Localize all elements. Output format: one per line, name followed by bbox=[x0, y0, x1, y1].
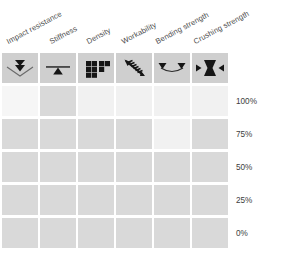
bending-strength-icon bbox=[154, 53, 190, 83]
matrix-cell-crushing-strength-25[interactable] bbox=[192, 185, 228, 215]
matrix-cell-bending-strength-75[interactable] bbox=[154, 119, 190, 149]
matrix-cell-workability-50[interactable] bbox=[116, 152, 152, 182]
matrix-cell-workability-100[interactable] bbox=[116, 86, 152, 116]
matrix-row-25 bbox=[2, 185, 229, 215]
matrix-cell-density-50[interactable] bbox=[78, 152, 114, 182]
matrix-cell-impact-resistance-100[interactable] bbox=[2, 86, 38, 116]
column-header-group: Impact resistance Stiffness Density Work… bbox=[0, 0, 281, 52]
matrix-row-100 bbox=[2, 86, 229, 116]
matrix-cell-workability-25[interactable] bbox=[116, 185, 152, 215]
matrix-cell-density-100[interactable] bbox=[78, 86, 114, 116]
matrix-cell-bending-strength-0[interactable] bbox=[154, 218, 190, 248]
matrix-cell-bending-strength-25[interactable] bbox=[154, 185, 190, 215]
stiffness-icon bbox=[40, 53, 76, 83]
column-header-density: Density bbox=[85, 27, 112, 46]
matrix-cell-bending-strength-50[interactable] bbox=[154, 152, 190, 182]
crushing-strength-icon bbox=[192, 53, 228, 83]
icon-cell-bending-strength bbox=[154, 53, 190, 83]
icon-cell-workability bbox=[116, 53, 152, 83]
material-properties-matrix: Impact resistance Stiffness Density Work… bbox=[0, 0, 281, 253]
row-label-100: 100% bbox=[236, 98, 281, 106]
matrix-cell-stiffness-50[interactable] bbox=[40, 152, 76, 182]
row-label-group: 100% 75% 50% 25% 0% bbox=[236, 53, 281, 249]
matrix-cell-crushing-strength-75[interactable] bbox=[192, 119, 228, 149]
matrix-row-75 bbox=[2, 119, 229, 149]
matrix-row-50 bbox=[2, 152, 229, 182]
row-label-25: 25% bbox=[236, 197, 281, 205]
icon-cell-density bbox=[78, 53, 114, 83]
matrix-cell-impact-resistance-75[interactable] bbox=[2, 119, 38, 149]
workability-icon bbox=[116, 53, 152, 83]
matrix-cell-crushing-strength-50[interactable] bbox=[192, 152, 228, 182]
density-icon bbox=[78, 53, 114, 83]
matrix-cell-density-25[interactable] bbox=[78, 185, 114, 215]
matrix-cell-impact-resistance-0[interactable] bbox=[2, 218, 38, 248]
matrix-icon-row bbox=[2, 53, 229, 83]
row-label-0: 0% bbox=[236, 230, 281, 238]
matrix-cell-crushing-strength-100[interactable] bbox=[192, 86, 228, 116]
impact-resistance-icon bbox=[2, 53, 38, 83]
matrix-cell-stiffness-0[interactable] bbox=[40, 218, 76, 248]
matrix-cell-density-75[interactable] bbox=[78, 119, 114, 149]
matrix-cell-density-0[interactable] bbox=[78, 218, 114, 248]
row-label-50: 50% bbox=[236, 164, 281, 172]
matrix-cell-impact-resistance-25[interactable] bbox=[2, 185, 38, 215]
matrix-cell-crushing-strength-0[interactable] bbox=[192, 218, 228, 248]
column-header-workability: Workability bbox=[120, 21, 157, 46]
matrix-row-0 bbox=[2, 218, 229, 248]
icon-cell-impact-resistance bbox=[2, 53, 38, 83]
icon-cell-stiffness bbox=[40, 53, 76, 83]
matrix-cell-stiffness-75[interactable] bbox=[40, 119, 76, 149]
matrix-cell-stiffness-25[interactable] bbox=[40, 185, 76, 215]
row-label-75: 75% bbox=[236, 131, 281, 139]
matrix-cell-workability-0[interactable] bbox=[116, 218, 152, 248]
column-header-stiffness: Stiffness bbox=[48, 25, 78, 46]
icon-cell-crushing-strength bbox=[192, 53, 228, 83]
matrix-cell-stiffness-100[interactable] bbox=[40, 86, 76, 116]
matrix-cell-impact-resistance-50[interactable] bbox=[2, 152, 38, 182]
matrix-grid bbox=[2, 53, 229, 249]
matrix-cell-workability-75[interactable] bbox=[116, 119, 152, 149]
matrix-cell-bending-strength-100[interactable] bbox=[154, 86, 190, 116]
